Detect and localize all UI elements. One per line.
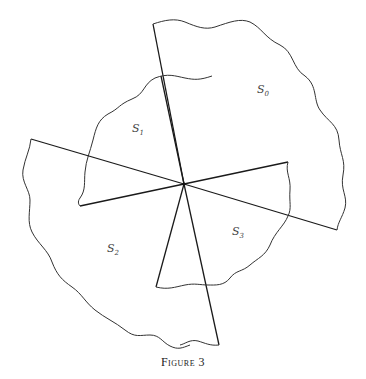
center-point [182,182,185,185]
sector-label-s3: S3 [232,225,245,240]
sector-s0 [153,20,346,230]
sector-label-s0: S0 [257,83,270,98]
figure-caption: Figure 3 [0,355,366,370]
sector-label-s2: S2 [107,242,120,257]
sector-label-s1: S1 [132,122,144,137]
sector-s3 [156,162,290,345]
sector-diagram: S0 S1 S2 S3 [0,0,366,379]
